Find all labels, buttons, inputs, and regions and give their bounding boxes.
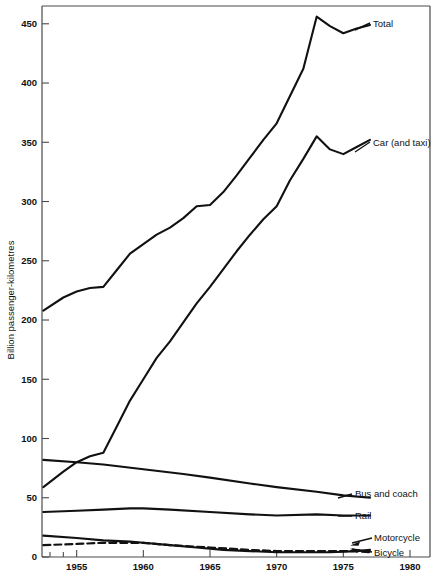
- series-label-total: Total: [373, 18, 393, 29]
- series-lines: [43, 17, 370, 553]
- series-line-total: [43, 17, 370, 311]
- x-tick-label: 1955: [66, 561, 88, 572]
- y-tick-label: 300: [21, 196, 37, 207]
- line-chart: 050100150200250300350400450 195519601965…: [0, 0, 440, 573]
- x-tick-label: 1975: [333, 561, 355, 572]
- y-tick-label: 400: [21, 77, 37, 88]
- series-line-rail: [43, 508, 370, 515]
- series-label-rail: Rail: [355, 510, 371, 521]
- x-axis-ticks: 195519601965197019751980: [50, 550, 421, 572]
- x-tick-label: 1965: [199, 561, 221, 572]
- y-tick-label: 100: [21, 433, 37, 444]
- arrow-line-motorcycle: [352, 538, 372, 543]
- plot-frame: [42, 6, 430, 557]
- y-tick-label: 150: [21, 374, 37, 385]
- x-tick-label: 1970: [266, 561, 287, 572]
- y-tick-label: 350: [21, 137, 37, 148]
- series-line-car-and-taxi: [43, 136, 370, 487]
- series-label-bicycle: Bicycle: [374, 547, 404, 558]
- chart-container: 050100150200250300350400450 195519601965…: [0, 0, 440, 573]
- y-axis-ticks: 050100150200250300350400450: [21, 18, 49, 562]
- series-labels: TotalCar (and taxi)Bus and coachRailMoto…: [355, 18, 431, 558]
- y-tick-label: 0: [32, 551, 37, 562]
- y-tick-label: 50: [26, 492, 37, 503]
- series-label-motorcycle: Motorcycle: [374, 532, 420, 543]
- series-leaders: [338, 23, 372, 553]
- series-label-car-and-taxi: Car (and taxi): [373, 137, 431, 148]
- x-tick-label: 1980: [399, 561, 420, 572]
- y-tick-label: 450: [21, 18, 37, 29]
- y-tick-label: 200: [21, 314, 37, 325]
- series-line-bus-and-coach: [43, 460, 370, 498]
- x-tick-label: 1960: [133, 561, 154, 572]
- y-tick-label: 250: [21, 255, 37, 266]
- series-label-bus-and-coach: Bus and coach: [355, 488, 418, 499]
- y-axis-title: Billion passenger-kilometres: [5, 240, 16, 359]
